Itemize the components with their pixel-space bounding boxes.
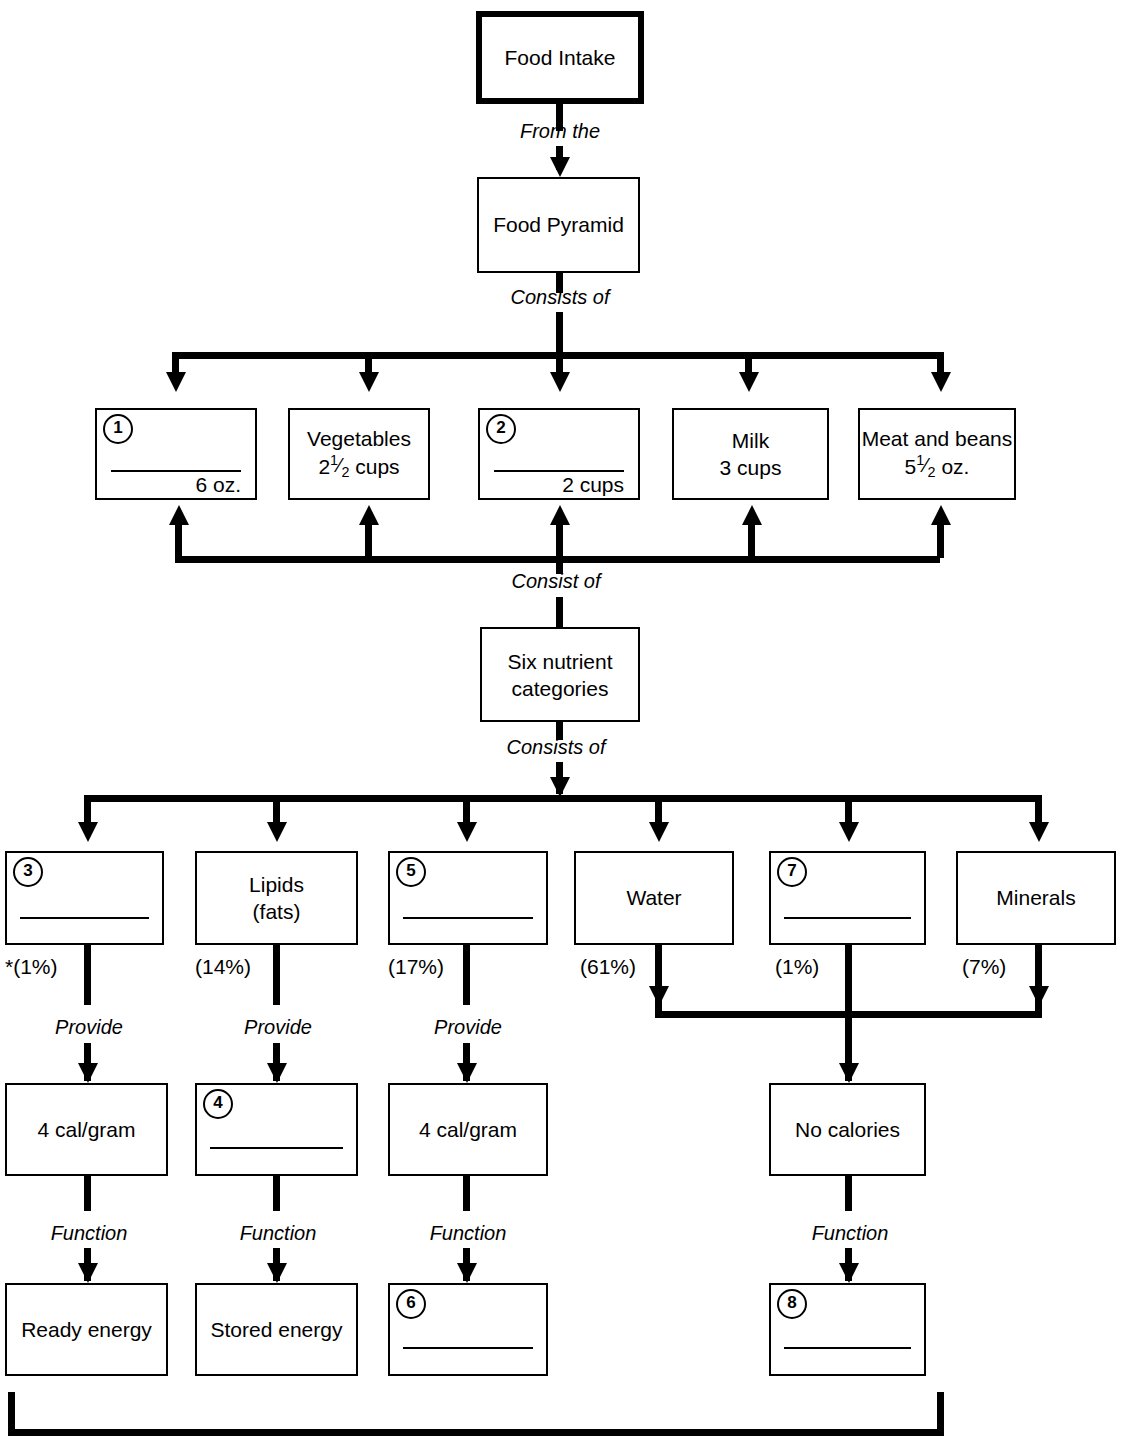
node-no-calories: No calories	[769, 1083, 926, 1176]
merge-spine-vitamins	[845, 945, 852, 1081]
arrowhead-nutrient-3	[457, 822, 477, 842]
label-function-3: Function	[393, 1222, 543, 1245]
node-food-group-1: 1 6 oz.	[95, 408, 257, 500]
arrowhead-up-food-group-4	[742, 505, 762, 525]
connector-consist-of-spine-lower	[556, 597, 563, 627]
node-food-group-vegetables: Vegetables 21⁄2 cups	[288, 408, 430, 500]
bus-up-riser-5	[937, 524, 944, 558]
label-function-1: Function	[14, 1222, 164, 1245]
arrowhead-food-group-1	[166, 372, 186, 392]
food-group-milk-text: Milk 3 cups	[674, 427, 827, 482]
question-number-4: 4	[203, 1089, 233, 1119]
nutrient-water-percent: (61%)	[580, 955, 636, 979]
six-nutrient-line1: Six nutrient	[507, 649, 612, 672]
answer-blank-3[interactable]	[20, 917, 149, 919]
food-group-milk-label: Milk	[732, 429, 769, 452]
question-number-7: 7	[777, 857, 807, 887]
answer-blank-7[interactable]	[784, 917, 911, 919]
bus-nutrients	[84, 795, 1038, 802]
label-provide-3: Provide	[393, 1016, 543, 1039]
label-from-the: From the	[476, 120, 644, 143]
label-provide-2: Provide	[203, 1016, 353, 1039]
food-group-2-amount: 2 cups	[494, 473, 624, 497]
node-food-pyramid-label: Food Pyramid	[479, 212, 638, 239]
connector-function-4-upper	[845, 1176, 852, 1211]
answer-blank-6[interactable]	[403, 1347, 533, 1349]
node-function-6: 6	[388, 1283, 548, 1376]
node-food-group-meat: Meat and beans 51⁄2 oz.	[858, 408, 1016, 500]
nutrient-7-percent: (1%)	[775, 955, 819, 979]
arrowhead-up-food-group-2	[359, 505, 379, 525]
six-nutrient-line2: categories	[512, 677, 609, 700]
arrowhead-to-food-pyramid	[550, 157, 570, 177]
label-function-4: Function	[775, 1222, 925, 1245]
arrowhead-up-food-group-1	[169, 505, 189, 525]
node-nutrient-water: Water	[574, 851, 734, 945]
answer-blank-5[interactable]	[403, 917, 533, 919]
label-consists-of-2: Consists of	[466, 736, 646, 759]
ready-energy-label: Ready energy	[7, 1316, 166, 1343]
question-number-6: 6	[396, 1289, 426, 1319]
node-ready-energy: Ready energy	[5, 1283, 168, 1376]
stored-energy-label: Stored energy	[197, 1316, 356, 1343]
bus-up-riser-3	[556, 524, 563, 558]
arrowhead-nutrient-2	[267, 822, 287, 842]
bus-up-riser-4	[748, 524, 755, 558]
answer-blank-4[interactable]	[210, 1147, 343, 1149]
nutrient-minerals-percent: (7%)	[962, 955, 1006, 979]
answer-blank-8[interactable]	[784, 1347, 911, 1349]
arrowhead-food-group-5	[931, 372, 951, 392]
food-group-vegetables-label: Vegetables	[307, 427, 411, 450]
bottom-bracket-base	[8, 1429, 944, 1436]
arrowhead-merge-water	[649, 986, 669, 1006]
label-function-2: Function	[203, 1222, 353, 1245]
node-food-intake-label: Food Intake	[482, 44, 638, 71]
question-number-3: 3	[13, 857, 43, 887]
food-group-meat-amount: 51⁄2 oz.	[905, 455, 970, 478]
arrowhead-to-nutrient-bus	[550, 777, 570, 797]
connector-function-2-upper	[273, 1176, 280, 1211]
node-function-8: 8	[769, 1283, 926, 1376]
node-stored-energy: Stored energy	[195, 1283, 358, 1376]
flowchart-canvas: Food Intake From the Food Pyramid Consis…	[0, 0, 1127, 1452]
food-group-1-amount: 6 oz.	[111, 473, 241, 497]
question-number-5: 5	[396, 857, 426, 887]
node-energy-4calgram-right: 4 cal/gram	[388, 1083, 548, 1176]
connector-provide-2-upper	[273, 945, 280, 1005]
label-consists-of-1: Consists of	[476, 286, 644, 309]
answer-blank-2[interactable]	[494, 470, 624, 472]
node-food-intake: Food Intake	[476, 11, 644, 104]
energy-4calgram-right-label: 4 cal/gram	[390, 1116, 546, 1143]
nutrient-lipids-text: Lipids (fats)	[197, 871, 356, 926]
nutrient-lipids-label: Lipids	[249, 873, 304, 896]
arrowhead-up-food-group-3	[550, 505, 570, 525]
question-number-1: 1	[103, 414, 133, 444]
question-number-2: 2	[486, 414, 516, 444]
nutrient-water-label: Water	[576, 885, 732, 912]
arrowhead-function-1	[78, 1263, 98, 1283]
arrowhead-function-2	[267, 1263, 287, 1283]
connector-provide-3-upper	[463, 945, 470, 1005]
nutrient-lipids-sublabel: (fats)	[253, 900, 301, 923]
arrowhead-provide-3	[457, 1063, 477, 1083]
nutrient-lipids-percent: (14%)	[195, 955, 251, 979]
node-six-nutrient-label: Six nutrient categories	[482, 647, 638, 702]
arrowhead-function-3	[457, 1263, 477, 1283]
arrowhead-food-group-4	[739, 372, 759, 392]
food-group-meat-label: Meat and beans	[862, 427, 1013, 450]
node-nutrient-7: 7	[769, 851, 926, 945]
nutrient-3-percent: *(1%)	[5, 955, 58, 979]
node-energy-4: 4	[195, 1083, 358, 1176]
arrowhead-merge-minerals	[1029, 986, 1049, 1006]
arrowhead-nutrient-5	[839, 822, 859, 842]
food-group-meat-text: Meat and beans 51⁄2 oz.	[860, 425, 1014, 484]
arrowhead-function-4	[839, 1263, 859, 1283]
nutrient-5-percent: (17%)	[388, 955, 444, 979]
connector-provide-1-upper	[84, 945, 91, 1005]
connector-function-3-upper	[463, 1176, 470, 1211]
node-six-nutrient-categories: Six nutrient categories	[480, 627, 640, 722]
answer-blank-1[interactable]	[111, 470, 241, 472]
arrowhead-nutrient-4	[649, 822, 669, 842]
food-group-vegetables-text: Vegetables 21⁄2 cups	[290, 425, 428, 484]
node-food-group-2: 2 2 cups	[478, 408, 640, 500]
